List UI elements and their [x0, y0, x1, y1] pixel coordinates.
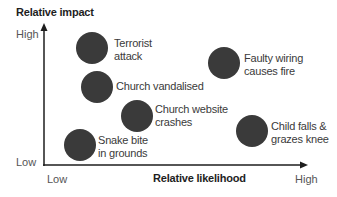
risk-matrix-plot — [0, 0, 337, 197]
x-axis-arrow-icon — [300, 162, 308, 169]
risk-point-church-vandalised — [81, 71, 113, 103]
label-church-vandalised: Church vandalised — [116, 80, 204, 93]
label-line: Church website — [155, 103, 228, 116]
label-line: Terrorist — [114, 37, 152, 50]
risk-point-snake-bite — [64, 129, 96, 161]
x-tick-high: High — [295, 173, 318, 185]
y-tick-low: Low — [16, 156, 36, 168]
label-terrorist-attack: Terrorist attack — [114, 37, 152, 63]
label-child-falls: Child falls & grazes knee — [271, 120, 329, 146]
label-faulty-wiring: Faulty wiring causes fire — [244, 52, 303, 78]
label-line: causes fire — [244, 65, 303, 78]
label-line: Snake bite — [98, 134, 148, 147]
label-snake-bite: Snake bite in grounds — [98, 134, 148, 160]
label-line: in grounds — [98, 147, 148, 160]
x-axis-title: Relative likelihood — [153, 172, 246, 184]
label-line: attack — [114, 50, 152, 63]
y-axis-title: Relative impact — [16, 6, 94, 18]
label-line: grazes knee — [271, 133, 329, 146]
label-line: Church vandalised — [116, 80, 204, 93]
label-line: Faulty wiring — [244, 52, 303, 65]
risk-point-faulty-wiring — [208, 47, 240, 79]
x-tick-low: Low — [47, 173, 67, 185]
label-line: Child falls & — [271, 120, 329, 133]
y-axis-arrow-icon — [41, 23, 48, 31]
risk-point-terrorist-attack — [76, 32, 108, 64]
risk-point-church-website-crashes — [121, 100, 153, 132]
label-church-website-crashes: Church website crashes — [155, 103, 228, 129]
label-line: crashes — [155, 116, 228, 129]
risk-point-child-falls — [236, 115, 268, 147]
y-tick-high: High — [16, 28, 39, 40]
